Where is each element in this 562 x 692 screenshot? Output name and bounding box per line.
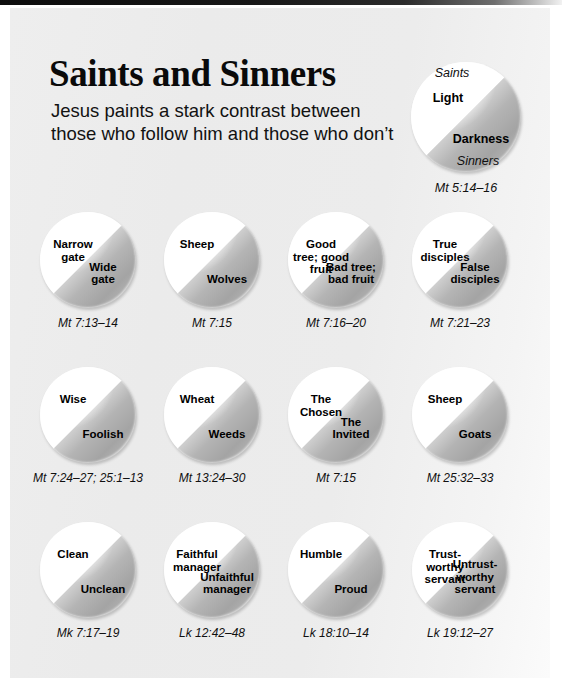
contrast-label-negative: Unfaithful manager bbox=[195, 571, 259, 596]
legend-label-darkness: Darkness bbox=[445, 133, 517, 146]
contrast-disc: WheatWeeds bbox=[164, 367, 260, 463]
contrast-label-positive: The Chosen bbox=[290, 393, 352, 418]
contrast-item: The ChosenThe InvitedMt 7:15 bbox=[274, 367, 398, 485]
contrast-disc: Trust- worthy servantUntrust- worthy ser… bbox=[412, 522, 508, 618]
scan-edge-artifact bbox=[0, 0, 562, 5]
scripture-reference: Mt 7:24–27; 25:1–13 bbox=[26, 471, 150, 485]
scripture-reference: Mt 7:21–23 bbox=[398, 316, 522, 330]
contrast-label-negative: Foolish bbox=[71, 428, 135, 441]
contrast-label-negative: Wide gate bbox=[71, 261, 135, 286]
contrast-label-positive: Narrow gate bbox=[42, 238, 104, 263]
contrast-label-negative: False disciples bbox=[443, 261, 507, 286]
contrast-label-positive: True disciples bbox=[414, 238, 476, 263]
scripture-reference: Lk 18:10–14 bbox=[274, 626, 398, 640]
contrast-label-positive: Wise bbox=[42, 393, 104, 406]
contrast-label-positive: Faithful manager bbox=[166, 548, 228, 573]
split-circle-icon bbox=[412, 367, 508, 463]
scripture-reference: Lk 12:42–48 bbox=[150, 626, 274, 640]
contrast-disc: Good tree; good fruitBad tree; bad fruit bbox=[288, 212, 384, 308]
contrast-disc: The ChosenThe Invited bbox=[288, 367, 384, 463]
contrast-disc: CleanUnclean bbox=[40, 522, 136, 618]
contrast-label-negative: Unclean bbox=[71, 583, 135, 596]
contrast-item: SheepGoatsMt 25:32–33 bbox=[398, 367, 522, 485]
contrast-label-negative: Proud bbox=[319, 583, 383, 596]
contrast-label-negative: Untrust- worthy servant bbox=[443, 558, 507, 596]
contrast-label-negative: The Invited bbox=[319, 416, 383, 441]
split-circle-icon bbox=[164, 212, 260, 308]
contrast-item: True disciplesFalse disciplesMt 7:21–23 bbox=[398, 212, 522, 330]
split-circle-icon bbox=[40, 522, 136, 618]
page-subtitle: Jesus paints a stark contrast between th… bbox=[51, 100, 409, 145]
contrast-item: Narrow gateWide gateMt 7:13–14 bbox=[26, 212, 150, 330]
contrast-label-positive: Wheat bbox=[166, 393, 228, 406]
scripture-reference: Mt 13:24–30 bbox=[150, 471, 274, 485]
split-circle-icon bbox=[288, 522, 384, 618]
contrast-disc: HumbleProud bbox=[288, 522, 384, 618]
contrast-label-positive: Sheep bbox=[414, 393, 476, 406]
contrast-disc: Faithful managerUnfaithful manager bbox=[164, 522, 260, 618]
contrast-label-negative: Bad tree; bad fruit bbox=[319, 261, 383, 286]
split-circle-icon bbox=[40, 367, 136, 463]
legend-caption-saints: Saints bbox=[411, 66, 493, 80]
scripture-reference: Mt 7:15 bbox=[274, 471, 398, 485]
legend-disc: Saints Light Darkness Sinners bbox=[411, 62, 521, 172]
contrast-label-positive: Clean bbox=[42, 548, 104, 561]
scripture-reference: Mt 7:16–20 bbox=[274, 316, 398, 330]
contrast-label-positive: Sheep bbox=[166, 238, 228, 251]
contrast-item: HumbleProudLk 18:10–14 bbox=[274, 522, 398, 640]
contrast-label-negative: Wolves bbox=[195, 273, 259, 286]
contrast-item: Trust- worthy servantUntrust- worthy ser… bbox=[398, 522, 522, 640]
contrast-item: Faithful managerUnfaithful managerLk 12:… bbox=[150, 522, 274, 640]
legend-caption-sinners: Sinners bbox=[435, 154, 521, 168]
scripture-reference: Lk 19:12–27 bbox=[398, 626, 522, 640]
scripture-reference: Mt 25:32–33 bbox=[398, 471, 522, 485]
infographic-page: Saints and Sinners Jesus paints a stark … bbox=[10, 8, 550, 678]
contrast-label-positive: Humble bbox=[290, 548, 352, 561]
contrast-item: WheatWeedsMt 13:24–30 bbox=[150, 367, 274, 485]
split-circle-icon bbox=[164, 367, 260, 463]
legend-label-light: Light bbox=[417, 92, 479, 105]
contrast-label-negative: Weeds bbox=[195, 428, 259, 441]
legend-reference: Mt 5:14–16 bbox=[396, 181, 536, 195]
contrast-disc: Narrow gateWide gate bbox=[40, 212, 136, 308]
contrast-disc: WiseFoolish bbox=[40, 367, 136, 463]
page-title: Saints and Sinners bbox=[49, 54, 409, 94]
contrast-item: CleanUncleanMk 7:17–19 bbox=[26, 522, 150, 640]
contrast-item: Good tree; good fruitBad tree; bad fruit… bbox=[274, 212, 398, 330]
contrast-item: SheepWolvesMt 7:15 bbox=[150, 212, 274, 330]
legend-diagram: Saints Light Darkness Sinners Mt 5:14–16 bbox=[396, 62, 536, 195]
contrast-disc: SheepGoats bbox=[412, 367, 508, 463]
contrast-disc: True disciplesFalse disciples bbox=[412, 212, 508, 308]
contrast-label-negative: Goats bbox=[443, 428, 507, 441]
contrast-item: WiseFoolishMt 7:24–27; 25:1–13 bbox=[26, 367, 150, 485]
headline-block: Saints and Sinners Jesus paints a stark … bbox=[49, 54, 409, 145]
scripture-reference: Mk 7:17–19 bbox=[26, 626, 150, 640]
contrast-disc: SheepWolves bbox=[164, 212, 260, 308]
scripture-reference: Mt 7:13–14 bbox=[26, 316, 150, 330]
scripture-reference: Mt 7:15 bbox=[150, 316, 274, 330]
